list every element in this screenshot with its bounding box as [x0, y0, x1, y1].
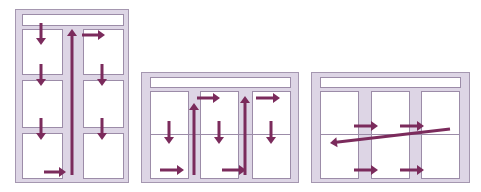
panel-layout-three-column-landscape-rowwise: [312, 73, 470, 183]
layout-diagram-canvas: [0, 0, 481, 192]
header-block: [321, 78, 461, 88]
header-block: [23, 15, 124, 26]
reading-order-diagram: [0, 0, 481, 192]
panel-layout-three-column-landscape-columnwise: [142, 73, 299, 183]
content-column: [84, 134, 124, 179]
header-block: [151, 78, 291, 88]
panel-layout-two-column-portrait: [16, 10, 129, 183]
